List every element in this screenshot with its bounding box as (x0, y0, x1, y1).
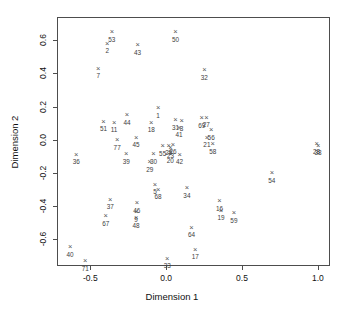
y-axis-tick-label: 0.2 (38, 101, 48, 113)
data-point-label: 44 (123, 117, 130, 126)
data-point-label: 58 (209, 146, 216, 155)
x-axis-tick-label: 0.5 (236, 273, 248, 283)
data-point-label: 50 (172, 34, 179, 43)
data-point-label: 54 (268, 175, 275, 184)
data-point-label: 32 (201, 72, 208, 81)
y-axis-tick (53, 173, 57, 174)
x-axis-tick (90, 266, 91, 270)
data-point-label: 18 (148, 125, 155, 134)
data-point-label: 1 (156, 110, 160, 119)
data-point-label: 40 (67, 249, 74, 258)
x-axis-tick-label: 1.0 (312, 273, 324, 283)
data-point-label: 42 (176, 157, 183, 166)
data-point-label: 67 (102, 218, 109, 227)
data-point-label: 64 (188, 230, 195, 239)
y-axis-tick-label: -0.4 (38, 199, 48, 214)
data-point-label: 2 (106, 46, 110, 55)
x-axis-tick-label: -0.5 (83, 273, 98, 283)
data-point-label: 77 (114, 142, 121, 151)
data-point-label: 48 (133, 220, 140, 229)
data-point-label: 59 (230, 215, 237, 224)
data-point-label: 19 (217, 213, 224, 222)
data-point-label: 45 (133, 140, 140, 149)
y-axis-tick-label: 0.4 (38, 68, 48, 80)
y-axis-tick (53, 239, 57, 240)
data-point-label: 38 (315, 148, 322, 157)
data-point-label: 17 (192, 252, 199, 261)
x-axis-tick (318, 266, 319, 270)
y-axis-tick-label: -0.6 (38, 232, 48, 247)
data-point-label: 33 (164, 261, 171, 270)
data-point-label: 51 (100, 124, 107, 133)
y-axis-tick (53, 40, 57, 41)
data-point-label: 39 (123, 156, 130, 165)
y-axis-tick (53, 73, 57, 74)
y-axis-label: Dimension 2 (9, 115, 20, 168)
y-axis-tick (53, 206, 57, 207)
y-axis-tick-label: -0.2 (38, 166, 48, 181)
data-point-label: 7 (96, 71, 100, 80)
data-point-label: 20 (167, 155, 174, 164)
x-axis-tick-label: 0.0 (160, 273, 172, 283)
data-point-label: 37 (107, 202, 114, 211)
scatter-plot: ×53×50×2×43×7×32×1×44×51×11×18×31×8×69×2… (0, 0, 344, 317)
y-axis-tick-label: 0.6 (38, 34, 48, 46)
x-axis-label: Dimension 1 (0, 291, 344, 302)
data-point-label: 68 (155, 192, 162, 201)
y-axis-tick (53, 140, 57, 141)
plot-area: ×53×50×2×43×7×32×1×44×51×11×18×31×8×69×2… (58, 18, 329, 265)
y-axis-tick-label: 0.0 (38, 134, 48, 146)
data-point-label: 71 (82, 263, 89, 272)
data-point-label: 29 (146, 164, 153, 173)
data-point-label: 43 (134, 47, 141, 56)
data-point-label: 41 (175, 130, 182, 139)
data-point-label: 36 (73, 157, 80, 166)
data-point-label: 11 (111, 125, 118, 134)
data-point-label: 34 (183, 190, 190, 199)
x-axis-tick (166, 266, 167, 270)
x-axis-tick (242, 266, 243, 270)
y-axis-tick (53, 107, 57, 108)
plot-frame: ×53×50×2×43×7×32×1×44×51×11×18×31×8×69×2… (57, 17, 330, 266)
